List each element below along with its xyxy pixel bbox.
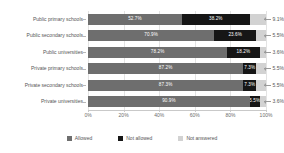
bar-value-label: 7.3% (244, 66, 255, 71)
chart-legend: AllowedNot allowedNot answered (0, 131, 284, 145)
category-tick (83, 19, 86, 20)
bar-segment-allowed: 90.9% (88, 96, 250, 107)
stacked-bar-chart: Public primary schoolsPublic secondary s… (0, 0, 284, 153)
bar-value-label: 90.9% (162, 99, 176, 104)
callout-arrow-icon (264, 52, 271, 53)
bar-segment-allowed: 87.3% (88, 80, 243, 91)
bar-segment-allowed: 87.2% (88, 63, 243, 74)
bar-rows: 52.7%38.2%70.9%23.6%78.2%18.2%87.2%7.3%8… (88, 11, 266, 110)
bar-value-label: 23.6% (228, 33, 242, 38)
callout-arrow-icon (264, 35, 271, 36)
category-tick (83, 36, 86, 37)
callout-arrow-icon (264, 101, 271, 102)
bar-row: 87.3%7.3% (88, 80, 266, 91)
legend-swatch-icon (67, 136, 72, 141)
category-tick (83, 52, 86, 53)
category-label: Private secondary schools (25, 80, 83, 91)
category-label: Public primary schools (33, 14, 83, 25)
not-answered-callout: 5.5% (264, 80, 284, 91)
not-answered-callouts: 9.1%5.5%3.6%5.5%5.5%3.6% (264, 11, 284, 110)
category-tick (83, 85, 86, 86)
axis-tick-label: 20% (119, 113, 129, 118)
not-answered-callout: 3.6% (264, 47, 284, 58)
bar-segment-not-allowed: 7.3% (243, 63, 256, 74)
category-axis-labels: Public primary schoolsPublic secondary s… (0, 11, 86, 110)
bar-segment-not-allowed: 7.3% (243, 80, 256, 91)
bar-segment-not-allowed: 38.2% (182, 14, 250, 25)
callout-value-label: 5.5% (273, 66, 284, 71)
legend-swatch-icon (118, 136, 123, 141)
axis-tick-label: 80% (225, 113, 235, 118)
callout-arrow-icon (264, 85, 271, 86)
axis-tick-label: 40% (154, 113, 164, 118)
category-tick (83, 102, 86, 103)
legend-label: Allowed (75, 136, 93, 141)
not-answered-callout: 3.6% (264, 96, 284, 107)
bar-value-label: 18.2% (237, 50, 251, 55)
bar-value-label: 52.7% (128, 17, 142, 22)
bar-segment-not-allowed: 5.5% (250, 96, 260, 107)
bar-value-label: 5.5% (250, 99, 260, 104)
legend-label: Not allowed (126, 136, 152, 141)
callout-value-label: 3.6% (273, 99, 284, 104)
bar-segment-not-allowed: 18.2% (227, 47, 259, 58)
bar-row: 70.9%23.6% (88, 30, 266, 41)
category-label: Private primary schools (31, 63, 83, 74)
bar-value-label: 78.2% (151, 50, 165, 55)
not-answered-callout: 5.5% (264, 63, 284, 74)
bar-value-label: 70.9% (144, 33, 158, 38)
axis-tick-label: 100% (260, 113, 273, 118)
bar-value-label: 87.3% (159, 83, 173, 88)
callout-value-label: 5.5% (273, 33, 284, 38)
bar-segment-allowed: 52.7% (88, 14, 182, 25)
bar-value-label: 87.2% (159, 66, 173, 71)
axis-tick-label: 60% (190, 113, 200, 118)
legend-label: Not answered (186, 136, 217, 141)
callout-value-label: 5.5% (273, 83, 284, 88)
category-label: Private universities (41, 96, 83, 107)
legend-item[interactable]: Not allowed (118, 136, 152, 141)
legend-item[interactable]: Not answered (178, 136, 217, 141)
callout-value-label: 3.6% (273, 50, 284, 55)
bar-value-label: 7.3% (244, 83, 255, 88)
category-label: Public secondary schools (27, 30, 83, 41)
legend-swatch-icon (178, 136, 183, 141)
callout-arrow-icon (264, 19, 271, 20)
bar-row: 87.2%7.3% (88, 63, 266, 74)
category-tick (83, 69, 86, 70)
bar-value-label: 38.2% (209, 17, 223, 22)
callout-value-label: 9.1% (273, 17, 284, 22)
callout-arrow-icon (264, 68, 271, 69)
bar-row: 78.2%18.2% (88, 47, 266, 58)
bar-row: 90.9%5.5% (88, 96, 266, 107)
bar-segment-not-allowed: 23.6% (214, 30, 256, 41)
category-label: Public universities (43, 47, 83, 58)
axis-line (88, 110, 266, 111)
bar-segment-allowed: 70.9% (88, 30, 214, 41)
legend-item[interactable]: Allowed (67, 136, 93, 141)
bar-row: 52.7%38.2% (88, 14, 266, 25)
not-answered-callout: 9.1% (264, 14, 284, 25)
plot-area: 52.7%38.2%70.9%23.6%78.2%18.2%87.2%7.3%8… (88, 11, 266, 110)
not-answered-callout: 5.5% (264, 30, 284, 41)
value-axis: 0%20%40%60%80%100% (88, 110, 266, 122)
bar-segment-allowed: 78.2% (88, 47, 227, 58)
axis-tick-label: 0% (84, 113, 91, 118)
